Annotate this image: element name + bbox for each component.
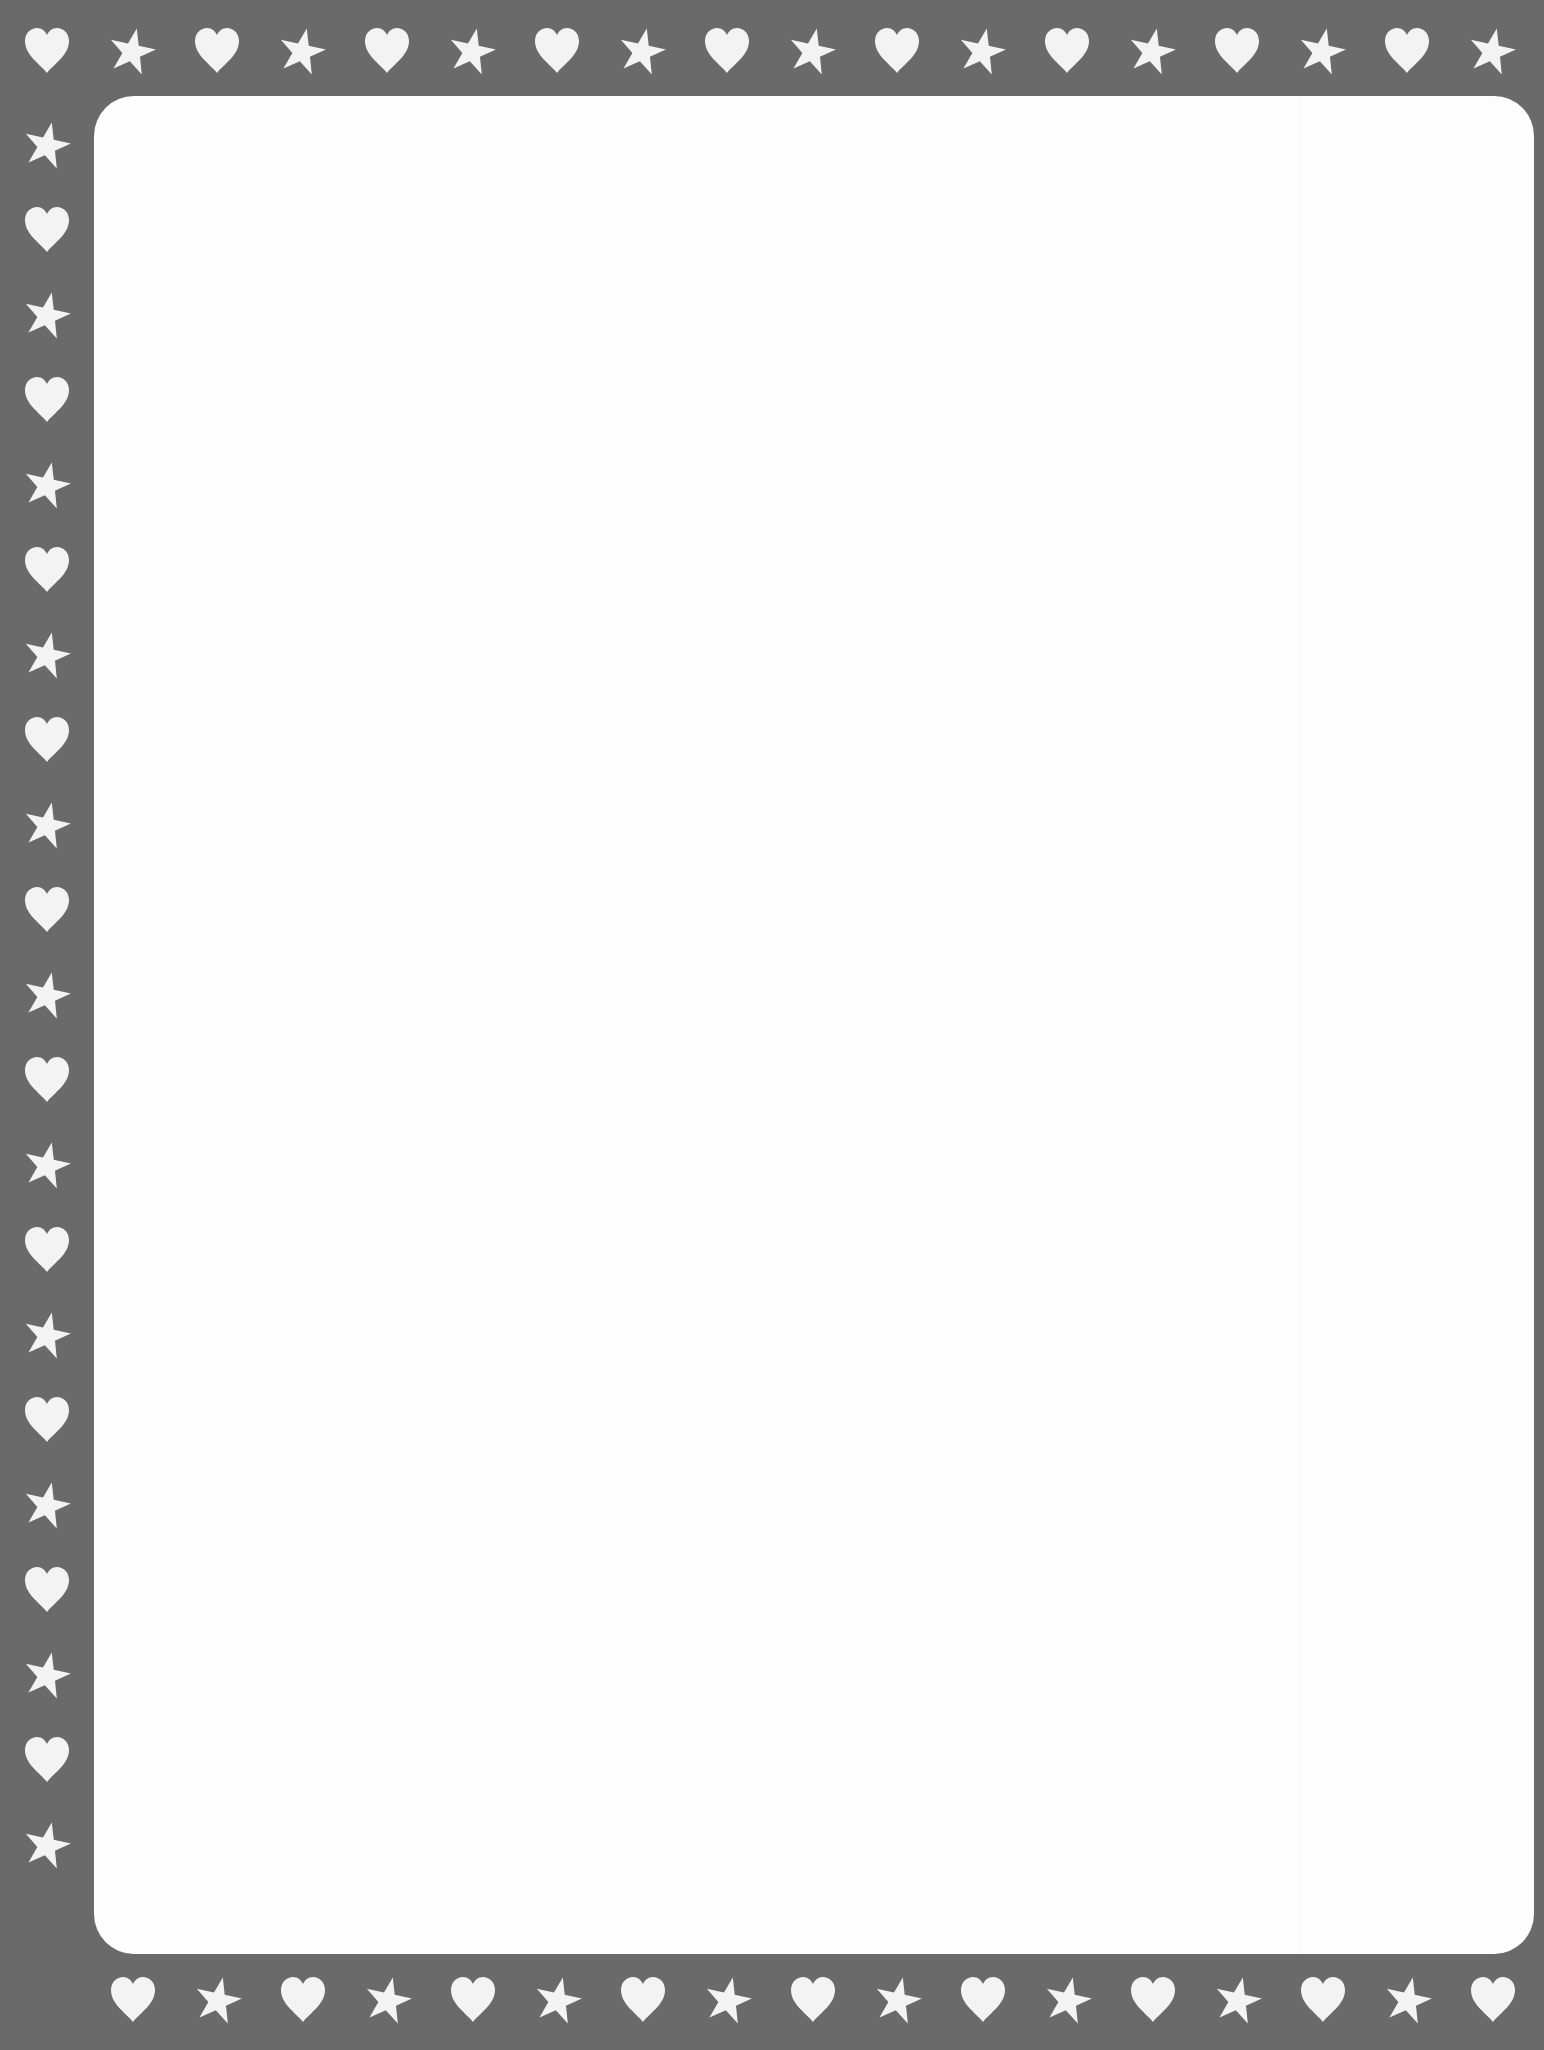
star-icon [22,460,72,510]
heart-icon [448,1975,498,2025]
heart-icon [22,545,72,595]
star-icon [22,970,72,1020]
heart-icon [22,715,72,765]
heart-icon [1212,26,1262,76]
star-icon [193,1975,243,2025]
star-icon [957,26,1007,76]
star-icon [22,1820,72,1870]
star-icon [1127,26,1177,76]
heart-icon [958,1975,1008,2025]
star-icon [873,1975,923,2025]
star-icon [22,1310,72,1360]
heart-icon [1042,26,1092,76]
heart-icon [22,1565,72,1615]
heart-icon [22,205,72,255]
star-icon [1043,1975,1093,2025]
star-icon [22,1650,72,1700]
heart-icon [532,26,582,76]
star-icon [1467,26,1517,76]
heart-icon [618,1975,668,2025]
heart-icon [22,375,72,425]
heart-icon [1468,1975,1518,2025]
fold-line [1300,96,1301,1954]
heart-icon [362,26,412,76]
star-icon [22,1480,72,1530]
star-icon [22,120,72,170]
star-icon [1213,1975,1263,2025]
star-icon [617,26,667,76]
heart-icon [1382,26,1432,76]
stationery-page [0,0,1544,2050]
star-icon [22,630,72,680]
heart-icon [22,1055,72,1105]
star-icon [22,290,72,340]
heart-icon [22,885,72,935]
star-icon [22,800,72,850]
star-icon [363,1975,413,2025]
star-icon [277,26,327,76]
heart-icon [22,1225,72,1275]
heart-icon [22,1395,72,1445]
heart-icon [22,1735,72,1785]
heart-icon [1298,1975,1348,2025]
heart-icon [702,26,752,76]
heart-icon [872,26,922,76]
writing-area [94,96,1534,1954]
star-icon [703,1975,753,2025]
heart-icon [278,1975,328,2025]
heart-icon [192,26,242,76]
star-icon [447,26,497,76]
heart-icon [108,1975,158,2025]
heart-icon [22,26,72,76]
star-icon [787,26,837,76]
star-icon [533,1975,583,2025]
star-icon [107,26,157,76]
heart-icon [1128,1975,1178,2025]
star-icon [22,1140,72,1190]
star-icon [1297,26,1347,76]
star-icon [1383,1975,1433,2025]
heart-icon [788,1975,838,2025]
